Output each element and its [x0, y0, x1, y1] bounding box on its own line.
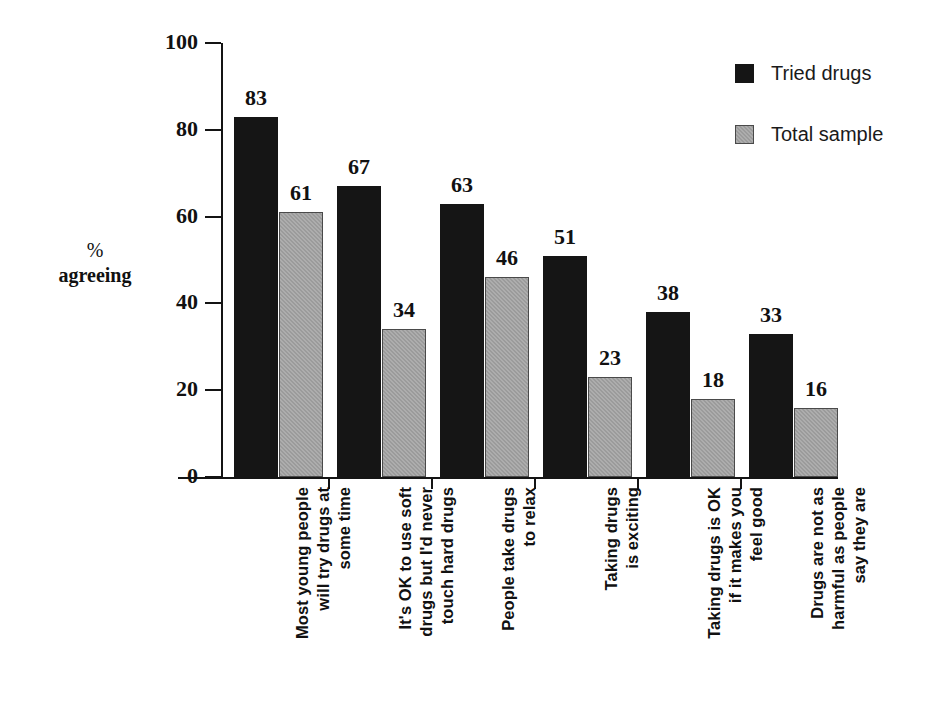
bar — [794, 408, 838, 477]
bar — [382, 329, 426, 477]
bar-group-0-series-1 — [279, 42, 323, 477]
legend-swatch-icon — [735, 125, 754, 144]
bar-group-1-series-0 — [337, 42, 381, 477]
legend-item-1: Total sample — [735, 123, 883, 146]
bar — [646, 312, 690, 477]
bar — [234, 117, 278, 477]
bar-group-4-series-0 — [646, 42, 690, 477]
bar — [279, 212, 323, 477]
category-label-5: Drugs are not as harmful as people say t… — [807, 487, 870, 677]
chart-legend: Tried drugsTotal sample — [735, 62, 883, 184]
legend-label: Tried drugs — [771, 62, 871, 85]
bar — [440, 204, 484, 477]
bar-value-label: 46 — [475, 247, 539, 269]
legend-item-0: Tried drugs — [735, 62, 883, 85]
bar-value-label: 23 — [578, 347, 642, 369]
bar-value-label: 34 — [372, 299, 436, 321]
bar-group-3-series-1 — [588, 42, 632, 477]
bar-value-label: 18 — [681, 369, 745, 391]
category-label-1: It's OK to use soft drugs but I'd never … — [395, 487, 458, 677]
category-label-2: People take drugs to relax — [498, 487, 540, 677]
legend-swatch-icon — [735, 64, 754, 83]
bar-group-4-series-1 — [691, 42, 735, 477]
bar — [337, 186, 381, 477]
category-label-4: Taking drugs is OK if it makes you feel … — [704, 487, 767, 677]
bar — [749, 334, 793, 477]
bar-group-1-series-1 — [382, 42, 426, 477]
bar-value-label: 61 — [269, 182, 333, 204]
bar — [588, 377, 632, 477]
legend-label: Total sample — [771, 123, 883, 146]
bar — [691, 399, 735, 477]
bar-value-label: 16 — [784, 378, 848, 400]
bar — [485, 277, 529, 477]
category-label-0: Most young people will try drugs at some… — [292, 487, 355, 677]
bar-group-3-series-0 — [543, 42, 587, 477]
category-label-3: Taking drugs is exciting — [601, 487, 643, 677]
bar-chart: % agreeing 020406080100 8361673463465123… — [0, 0, 944, 726]
